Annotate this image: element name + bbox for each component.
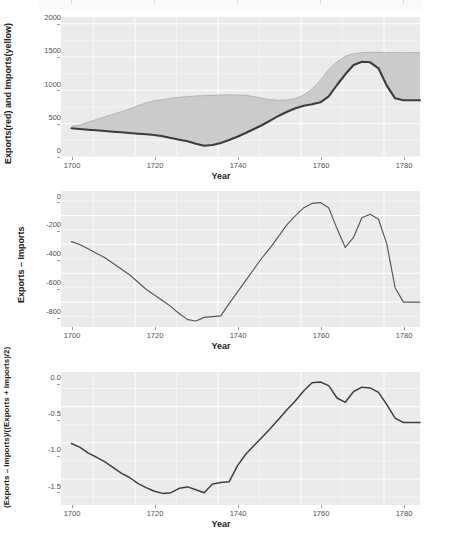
panel3-xtick-1720: 1720 — [135, 509, 175, 518]
panel3-ytick-m05: -0.5 — [21, 409, 61, 418]
panel1-y-axis-title: Exports(red) and Imports(yellow) — [3, 24, 14, 164]
panel3-ytick-m15: -1.5 — [21, 482, 61, 491]
panel2-ytick-m400: -400 — [21, 249, 61, 258]
panel3-xtick-mark — [238, 505, 239, 508]
panel3-xtick-mark — [72, 505, 73, 508]
panel1-xtick-mark — [72, 157, 73, 160]
panel-exports-minus-imports: Exports – Imports — [0, 185, 449, 360]
panel3-ytick-mark — [57, 420, 60, 421]
panel1-ytick-1000: 1000 — [21, 80, 61, 89]
panel2-svg — [61, 191, 420, 327]
panel3-ytick-0: 0.0 — [21, 373, 61, 382]
panel1-ytick-mark — [57, 57, 60, 58]
panel3-ytick-m10: -1.0 — [21, 445, 61, 454]
panel2-ytick-mark — [57, 289, 60, 290]
panel1-ytick-500: 500 — [21, 113, 61, 122]
panel3-line-normalized-balance — [71, 382, 420, 493]
panel3-xtick-1740: 1740 — [218, 509, 258, 518]
panel2-xtick-1720: 1720 — [135, 331, 175, 340]
panel2-ytick-mark — [57, 202, 60, 203]
panel1-xtick-1780: 1780 — [384, 161, 424, 170]
panel1-xtick-1760: 1760 — [301, 161, 341, 170]
panel3-y-axis-title: (Exports – Imports)/((Exports + Imports)… — [2, 368, 13, 508]
panel1-xtick-mark — [404, 157, 405, 160]
panel1-xtick-mark — [238, 157, 239, 160]
panel2-xtick-mark — [155, 327, 156, 330]
panel-normalized-balance: (Exports – Imports)/((Exports + Imports)… — [0, 360, 449, 540]
panel3-x-axis-title: Year — [181, 519, 261, 529]
panel2-ytick-mark — [57, 231, 60, 232]
panel2-ytick-0: 0 — [21, 192, 61, 201]
panel3-xtick-mark — [404, 505, 405, 508]
panel2-xtick-mark — [404, 327, 405, 330]
panel-exports-imports: Exports(red) and Imports(yellow) — [0, 0, 449, 185]
panel1-x-axis-title: Year — [181, 171, 261, 181]
panel2-ytick-m200: -200 — [21, 220, 61, 229]
panel3-xtick-1700: 1700 — [52, 509, 92, 518]
panel1-plot-area — [61, 17, 420, 157]
panel2-xtick-mark — [238, 327, 239, 330]
panel1-xtick-1720: 1720 — [135, 161, 175, 170]
panel3-xtick-mark — [321, 505, 322, 508]
panel1-xtick-1700: 1700 — [52, 161, 92, 170]
panel2-xtick-1760: 1760 — [301, 331, 341, 340]
panel1-ytick-mark — [57, 90, 60, 91]
panel2-xtick-mark — [321, 327, 322, 330]
panel2-xtick-mark — [72, 327, 73, 330]
panel2-x-axis-title: Year — [181, 341, 261, 351]
panel1-svg — [61, 17, 420, 157]
panel3-svg — [61, 372, 420, 505]
panel1-xtick-mark — [321, 157, 322, 160]
panel2-ytick-m800: -800 — [21, 307, 61, 316]
panel2-xtick-1740: 1740 — [218, 331, 258, 340]
panel2-gridlines — [52, 191, 426, 327]
panel1-ytick-mark — [57, 124, 60, 125]
panel2-ytick-mark — [57, 260, 60, 261]
panel1-ytick-mark — [57, 24, 60, 25]
panel2-line-trade-balance — [71, 203, 420, 321]
panel2-ytick-m600: -600 — [21, 278, 61, 287]
panel1-xtick-mark — [155, 157, 156, 160]
panel1-xtick-1740: 1740 — [218, 161, 258, 170]
panel2-plot-area — [61, 191, 420, 327]
panel2-xtick-1700: 1700 — [52, 331, 92, 340]
panel3-ytick-mark — [57, 384, 60, 385]
panel1-ytick-2000: 2000 — [21, 13, 61, 22]
panel3-plot-area — [61, 372, 420, 505]
panel2-xtick-1780: 1780 — [384, 331, 424, 340]
panel1-ytick-1500: 1500 — [21, 46, 61, 55]
panel3-xtick-mark — [155, 505, 156, 508]
panel1-ytick-mark — [57, 157, 60, 158]
panel3-xtick-1760: 1760 — [301, 509, 341, 518]
panel3-xtick-1780: 1780 — [384, 509, 424, 518]
panel2-ytick-mark — [57, 318, 60, 319]
panel3-ytick-mark — [57, 492, 60, 493]
panel1-ytick-0: 0 — [21, 146, 61, 155]
panel3-gridlines — [52, 372, 426, 505]
figure-canvas: Exports(red) and Imports(yellow) — [0, 0, 449, 540]
panel3-ytick-mark — [57, 456, 60, 457]
